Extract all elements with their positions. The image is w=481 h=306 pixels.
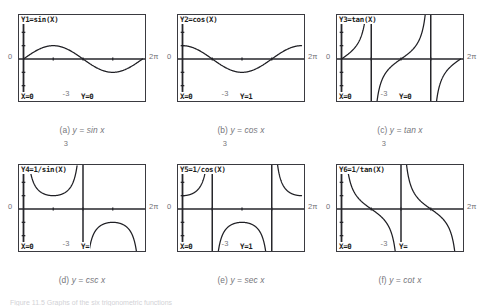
panel-e-caption-body: y = sec x — [230, 275, 264, 285]
panel-a-function-label: Y1=sin(X) — [20, 15, 59, 24]
panel-b-function-label: Y2=cos(X) — [179, 15, 218, 24]
panel-c-xmin-label: 0 — [326, 52, 330, 61]
panel-c-caption-body: y = tan x — [390, 125, 423, 135]
panel-c-caption-prefix: (c) — [377, 125, 387, 135]
panel-e-xmin-label: 0 — [167, 202, 171, 211]
panel-b-ymin-label: -3 — [161, 89, 289, 98]
panel-c-tan: 3 Y3=tan(X) X=0 Y=0 0 2π -3 (c) y = tan … — [320, 0, 480, 145]
panel-f-ymax-label: 3 — [320, 139, 448, 148]
panel-d-function-label: Y4=1/sin(X) — [20, 165, 68, 174]
panel-f-function-label: Y6=1/tan(X) — [338, 165, 386, 174]
panel-f-caption: (f) y = cot x — [320, 275, 480, 285]
panel-d-caption-body: y = csc x — [72, 275, 106, 285]
panel-a-xmax-label: 2π — [149, 52, 158, 61]
panel-e-caption: (e) y = sec x — [161, 275, 321, 285]
panel-f-cot: 3 Y6=1/tan(X) X=0 Y= 0 2π -3 (f) y = cot… — [320, 150, 480, 295]
panel-d-caption-prefix: (d) — [59, 275, 70, 285]
panel-d-xmin-label: 0 — [8, 202, 12, 211]
panel-a-ymin-label: -3 — [2, 89, 130, 98]
panel-c-ymin-label: -3 — [320, 89, 448, 98]
trig-graph-figure: 3 Y1=sin(X) X=0 Y=0 0 2π -3 (a) y = sin … — [0, 0, 481, 306]
panel-e-ymin-label: -3 — [161, 239, 289, 248]
panel-a-sin: 3 Y1=sin(X) X=0 Y=0 0 2π -3 (a) y = sin … — [2, 0, 162, 145]
panel-c-caption: (c) y = tan x — [320, 125, 480, 135]
panel-b-caption-body: y = cos x — [230, 125, 264, 135]
panel-f-caption-body: y = cot x — [389, 275, 421, 285]
panel-b-caption: (b) y = cos x — [161, 125, 321, 135]
figure-bottom-caption: Figure 11.5 Graphs of the six trigonomet… — [10, 299, 172, 306]
panel-e-xmax-label: 2π — [308, 202, 317, 211]
panel-d-caption: (d) y = csc x — [2, 275, 162, 285]
panel-a-caption-prefix: (a) — [60, 125, 71, 135]
panel-a-xmin-label: 0 — [8, 52, 12, 61]
panel-e-function-label: Y5=1/cos(X) — [179, 165, 227, 174]
panel-b-xmax-label: 2π — [308, 52, 317, 61]
panel-d-ymin-label: -3 — [2, 239, 130, 248]
panel-b-caption-prefix: (b) — [217, 125, 228, 135]
panel-b-cos: 3 Y2=cos(X) X=0 Y=1 0 2π -3 (b) y = cos … — [161, 0, 321, 145]
panel-a-caption-body: y = sin x — [73, 125, 105, 135]
panel-f-caption-prefix: (f) — [379, 275, 387, 285]
panel-d-ymax-label: 3 — [2, 139, 130, 148]
panel-a-caption: (a) y = sin x — [2, 125, 162, 135]
panel-c-function-label: Y3=tan(X) — [338, 15, 377, 24]
panel-e-sec: 3 Y5=1/cos(X) X=0 Y=1 0 2π -3 (e) y = se… — [161, 150, 321, 295]
panel-c-xmax-label: 2π — [467, 52, 476, 61]
panel-d-csc: 3 Y4=1/sin(X) X=0 Y= 0 2π -3 (d) y = csc… — [2, 150, 162, 295]
panel-f-xmin-label: 0 — [326, 202, 330, 211]
panel-b-xmin-label: 0 — [167, 52, 171, 61]
panel-d-xmax-label: 2π — [149, 202, 158, 211]
panel-e-caption-prefix: (e) — [217, 275, 228, 285]
panel-e-ymax-label: 3 — [161, 139, 289, 148]
panel-f-xmax-label: 2π — [467, 202, 476, 211]
panel-f-ymin-label: -3 — [320, 239, 448, 248]
